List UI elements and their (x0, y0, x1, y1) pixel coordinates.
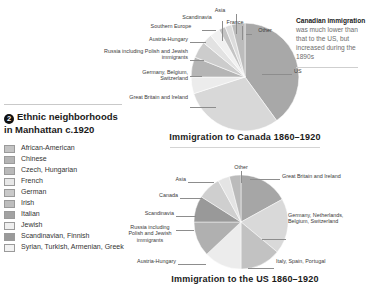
canada-leader-austria-hungary (190, 42, 206, 43)
side-note: Canadian immigration was much lower than… (296, 16, 369, 68)
legend-swatch (4, 156, 15, 164)
legend-swatch (4, 145, 15, 153)
legend-item-label: French (21, 177, 43, 186)
legend-item[interactable]: Scandinavian, Finnish (4, 232, 128, 242)
legend-swatch (4, 233, 15, 241)
legend-item-label: Czech, Hungarian (21, 166, 77, 175)
us-callout-italy-spain-portugal: Italy, Spain, Portugal (276, 258, 336, 264)
us-callout-germany-netherlands: Germany, Netherlands, Belgium, Switzerla… (288, 212, 362, 225)
canada-callout-us: US (294, 68, 314, 74)
legend-swatch (4, 200, 15, 208)
canada-leader-russia (190, 60, 204, 61)
legend-item-label: Syrian, Turkish, Armenian, Greek (21, 243, 124, 252)
legend-list: African-AmericanChineseCzech, HungarianF… (4, 144, 128, 253)
canada-pie-svg (190, 22, 300, 132)
legend-item-label: German (21, 188, 46, 197)
canada-title-divider (170, 147, 320, 148)
us-pie-chart (193, 174, 289, 270)
us-leader-scandinavia (176, 216, 196, 217)
us-pie-svg (193, 174, 289, 270)
us-chart-title: Immigration to the US 1860–1920 (130, 274, 360, 284)
us-leader-germany (262, 239, 286, 240)
canada-leader-germany (190, 76, 202, 77)
us-leader-great-britain (250, 179, 280, 180)
legend-item[interactable]: Czech, Hungarian (4, 166, 128, 176)
legend-item[interactable]: Syrian, Turkish, Armenian, Greek (4, 243, 128, 253)
us-leader-canada (180, 198, 202, 199)
infographic-root: Scandinavia Asia France Southern Europe … (0, 0, 369, 290)
canada-callout-scandinavia: Scandinavia (176, 14, 218, 20)
canada-chart-title: Immigration to Canada 1860–1920 (140, 132, 350, 142)
us-callout-asia: Asia (148, 176, 186, 182)
us-leader-italy (248, 268, 274, 269)
legend-item-label: Jewish (21, 221, 42, 230)
us-leader-other (241, 171, 242, 183)
us-leader-russia (176, 230, 194, 231)
legend-item[interactable]: Irish (4, 199, 128, 209)
side-note-divider (296, 67, 358, 68)
legend-item-label: Irish (21, 199, 34, 208)
canada-leader-us (262, 74, 292, 75)
legend-swatch (4, 167, 15, 175)
legend-item[interactable]: French (4, 177, 128, 187)
us-callout-russia: Russia including Polish and Jewish immig… (126, 224, 174, 243)
legend-item[interactable]: Chinese (4, 155, 128, 165)
canada-leader-france (242, 26, 243, 40)
legend-panel: 2Ethnic neighborhoods in Manhattan c.192… (4, 104, 128, 254)
legend-top-divider (4, 104, 122, 105)
canada-callout-austria-hungary: Austria-Hungary (112, 36, 188, 42)
canada-callout-great-britain-ireland: Great Britain and Ireland (118, 94, 188, 100)
us-callout-great-britain-ireland: Great Britain and Ireland (282, 173, 348, 179)
canada-callout-other: Other (250, 27, 280, 33)
legend-heading-text: Ethnic neighborhoods in Manhattan c.1920 (4, 111, 118, 135)
legend-item-label: Scandinavian, Finnish (21, 232, 90, 241)
legend-item[interactable]: African-American (4, 144, 128, 154)
legend-item-label: African-American (21, 144, 75, 153)
legend-item[interactable]: Italian (4, 210, 128, 220)
side-note-body: was much lower than that to the US, but … (296, 26, 358, 60)
canada-callout-asia: Asia (205, 7, 235, 13)
legend-swatch (4, 211, 15, 219)
canada-leader-great-britain (190, 107, 216, 108)
us-callout-canada: Canada (130, 192, 178, 198)
legend-item[interactable]: German (4, 188, 128, 198)
legend-item[interactable]: Jewish (4, 221, 128, 231)
side-note-lead: Canadian immigration (296, 17, 365, 24)
legend-heading: 2Ethnic neighborhoods in Manhattan c.192… (4, 111, 128, 136)
us-callout-other: Other (225, 164, 257, 170)
legend-number-badge: 2 (4, 114, 14, 124)
canada-callout-germany-belgium-switzerland: Germany, Belgium, Switzerland (120, 69, 188, 82)
legend-swatch (4, 222, 15, 230)
legend-swatch (4, 178, 15, 186)
legend-item-label: Italian (21, 210, 40, 219)
legend-swatch (4, 244, 15, 252)
us-leader-asia (188, 182, 214, 183)
canada-callout-southern-europe: Southern Europe (140, 23, 202, 29)
us-leader-austria-hungary (178, 264, 206, 265)
legend-swatch (4, 189, 15, 197)
legend-item-label: Chinese (21, 155, 47, 164)
canada-callout-france: France (219, 19, 251, 25)
canada-leader-other (246, 34, 252, 35)
canada-pie-chart (190, 22, 300, 132)
us-callout-austria-hungary: Austria-Hungary (110, 258, 176, 264)
canada-leader-southern-europe (202, 30, 216, 31)
canada-callout-russia: Russia including Polish and Jewish immig… (94, 48, 188, 61)
